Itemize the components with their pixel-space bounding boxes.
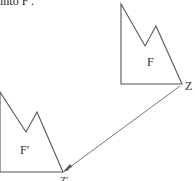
label-z-prime: Z′: [60, 175, 68, 181]
translation-diagram: F F′ Z Z′: [0, 0, 195, 181]
label-f-prime: F′: [20, 143, 30, 157]
translation-arrow: [66, 86, 180, 170]
label-f: F: [147, 55, 154, 69]
label-z: Z: [185, 79, 192, 93]
arrowhead-icon-fill: [63, 164, 72, 172]
figure-f: [121, 4, 182, 84]
figure-f-prime: [0, 92, 63, 172]
